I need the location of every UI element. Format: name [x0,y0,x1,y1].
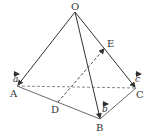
svg-text:c: c [135,74,140,84]
label-a: A [9,88,18,99]
label-e: E [107,38,114,49]
vector-label-b: b [102,104,108,114]
label-b: B [96,122,103,133]
svg-text:a: a [13,74,18,84]
label-d: D [51,104,59,115]
tetrahedron-diagram: O A B C D E a b c [0,0,151,138]
label-c: C [136,89,144,100]
vector-label-c: c [135,74,141,84]
vector-label-a: a [13,74,19,84]
label-o: O [71,1,79,12]
vector-de [58,49,104,102]
vector-oa [18,12,75,85]
svg-text:b: b [102,104,108,114]
edge-ac-hidden [17,86,136,88]
